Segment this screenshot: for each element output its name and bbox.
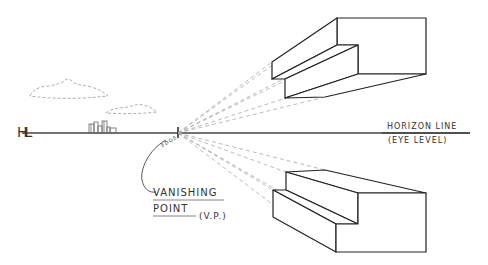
- horizon-line-label: HORIZON LINE: [387, 122, 457, 131]
- horizon-marker: HL: [17, 124, 29, 140]
- perspective-diagram: [0, 0, 488, 265]
- upper-stepped-block: [272, 18, 426, 98]
- clouds: [30, 79, 157, 114]
- point-label: POINT: [153, 203, 188, 214]
- vanishing-label: VANISHING: [153, 187, 218, 198]
- eye-level-label: (EYE LEVEL): [388, 136, 447, 145]
- vp-abbreviation: (V.P.): [199, 211, 227, 221]
- distant-buildings: [89, 121, 116, 133]
- lower-stepped-block: [273, 170, 426, 252]
